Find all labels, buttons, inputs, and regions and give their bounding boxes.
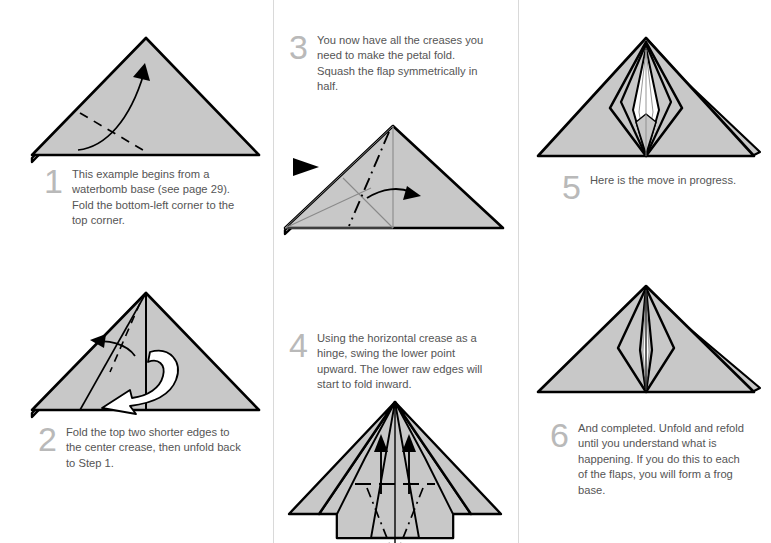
step-2-figure — [18, 280, 268, 425]
step-2-caption: 2 Fold the top two shorter edges to the … — [38, 422, 248, 482]
step-2-text: Fold the top two shorter edges to the ce… — [66, 425, 244, 471]
step-6-number: 6 — [550, 418, 569, 452]
step-panel-2: 2 Fold the top two shorter edges to the … — [0, 270, 273, 543]
step-2-number: 2 — [38, 422, 57, 456]
step-4-figure — [275, 398, 515, 543]
step-3-caption: 3 You now have all the creases you need … — [289, 30, 494, 102]
step-4-number: 4 — [289, 328, 308, 362]
step-5-figure — [528, 30, 768, 170]
origami-instruction-page: 1 This example begins from a waterbomb b… — [0, 0, 771, 543]
step-3-figure — [271, 110, 515, 245]
step-3-number: 3 — [289, 30, 308, 64]
step-1-text: This example begins from a waterbomb bas… — [72, 167, 240, 229]
step-5-number: 5 — [562, 170, 581, 204]
step-5-text: Here is the move in progress. — [590, 173, 770, 188]
step-6-text: And completed. Unfold and refold until y… — [578, 421, 750, 498]
step-1-number: 1 — [44, 164, 63, 198]
step-6-figure — [528, 280, 768, 405]
step-panel-3: 3 You now have all the creases you need … — [273, 0, 518, 270]
step-6-caption: 6 And completed. Unfold and refold until… — [550, 418, 760, 504]
step-4-text: Using the horizontal crease as a hinge, … — [317, 331, 487, 393]
step-panel-6: 6 And completed. Unfold and refold until… — [518, 280, 771, 543]
step-4-caption: 4 Using the horizontal crease as a hinge… — [289, 328, 494, 400]
step-1-caption: 1 This example begins from a waterbomb b… — [44, 164, 244, 234]
step-panel-5: 5 Here is the move in progress. — [518, 0, 771, 270]
step-panel-4: 4 Using the horizontal crease as a hinge… — [273, 310, 518, 543]
step-panel-1: 1 This example begins from a waterbomb b… — [0, 0, 273, 270]
step-1-figure — [18, 25, 268, 170]
step-5-caption: 5 Here is the move in progress. — [562, 170, 762, 200]
step-3-text: You now have all the creases you need to… — [317, 33, 487, 95]
